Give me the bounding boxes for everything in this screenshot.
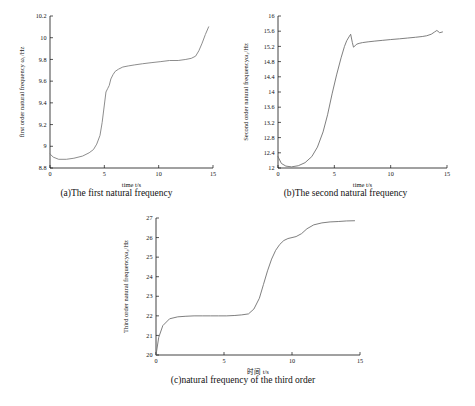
y-tick-label: 15.2 bbox=[264, 43, 275, 50]
x-tick-label: 5 bbox=[333, 170, 336, 177]
y-tick-label: 14.8 bbox=[264, 58, 275, 65]
y-tick-label: 27 bbox=[146, 214, 152, 221]
data-line bbox=[50, 27, 209, 159]
y-tick-label: 13.6 bbox=[264, 103, 275, 110]
y-tick-label: 12.8 bbox=[264, 134, 275, 141]
x-tick-label: 15 bbox=[444, 170, 450, 177]
panel-c: 2021222324252627051015时间 t/sThird order … bbox=[118, 210, 368, 385]
y-tick-label: 9.2 bbox=[39, 121, 47, 128]
y-tick-label: 15.6 bbox=[264, 27, 275, 34]
chart-b-svg: 1212.412.813.213.61414.414.815.215.61605… bbox=[238, 8, 453, 188]
data-line bbox=[156, 221, 355, 355]
y-axis-label: Second order natural frequencyω₂/Hz bbox=[242, 43, 249, 141]
x-tick-label: 0 bbox=[276, 170, 279, 177]
y-tick-label: 9 bbox=[43, 142, 46, 149]
y-tick-label: 10.2 bbox=[36, 12, 47, 19]
panel-c-plot: 2021222324252627051015时间 t/sThird order … bbox=[118, 210, 368, 375]
x-tick-label: 10 bbox=[156, 170, 162, 177]
x-axis-label: time t/s bbox=[353, 181, 373, 188]
chart-c-svg: 2021222324252627051015时间 t/sThird order … bbox=[118, 210, 368, 375]
y-tick-label: 22 bbox=[146, 312, 152, 319]
x-axis-label: time t/s bbox=[122, 181, 142, 188]
y-tick-label: 9.8 bbox=[39, 56, 47, 63]
y-axis-label: Third order natural frequencyω₃/Hz bbox=[122, 240, 129, 333]
y-tick-label: 16 bbox=[268, 12, 274, 19]
y-tick-label: 26 bbox=[146, 234, 152, 241]
y-tick-label: 20 bbox=[146, 351, 152, 358]
panel-b: 1212.412.813.213.61414.414.815.215.61605… bbox=[238, 8, 453, 198]
x-tick-label: 15 bbox=[357, 357, 363, 364]
y-tick-label: 25 bbox=[146, 253, 152, 260]
data-line bbox=[278, 30, 442, 166]
y-tick-label: 9.6 bbox=[39, 77, 47, 84]
y-tick-label: 24 bbox=[146, 273, 152, 280]
y-tick-label: 12 bbox=[268, 164, 274, 171]
y-tick-label: 13.2 bbox=[264, 119, 275, 126]
y-tick-label: 21 bbox=[146, 332, 152, 339]
panel-c-caption: (c)natural frequency of the third order bbox=[118, 375, 368, 385]
figure-container: 8.899.29.49.69.81010.2051015time t/sfirs… bbox=[0, 0, 475, 406]
y-tick-label: 9.4 bbox=[39, 99, 47, 106]
y-tick-label: 14 bbox=[268, 88, 274, 95]
x-tick-label: 10 bbox=[388, 170, 394, 177]
y-tick-label: 14.4 bbox=[264, 73, 275, 80]
y-axis-label: first order natural frequency ω₁/Hz bbox=[18, 47, 25, 138]
panel-a-caption: (a)The first natural frequency bbox=[14, 188, 219, 198]
panel-a: 8.899.29.49.69.81010.2051015time t/sfirs… bbox=[14, 8, 219, 198]
x-tick-label: 10 bbox=[289, 357, 295, 364]
x-axis-label: 时间 t/s bbox=[247, 367, 269, 376]
panel-a-plot: 8.899.29.49.69.81010.2051015time t/sfirs… bbox=[14, 8, 219, 188]
x-tick-label: 0 bbox=[154, 357, 157, 364]
y-tick-label: 8.8 bbox=[39, 164, 47, 171]
y-tick-label: 23 bbox=[146, 292, 152, 299]
chart-a-svg: 8.899.29.49.69.81010.2051015time t/sfirs… bbox=[14, 8, 219, 188]
x-tick-label: 5 bbox=[222, 357, 225, 364]
panel-b-plot: 1212.412.813.213.61414.414.815.215.61605… bbox=[238, 8, 453, 188]
y-tick-label: 10 bbox=[40, 34, 46, 41]
x-tick-label: 0 bbox=[48, 170, 51, 177]
panel-b-caption: (b)The second natural frequency bbox=[238, 188, 453, 198]
x-tick-label: 15 bbox=[210, 170, 216, 177]
y-tick-label: 12.4 bbox=[264, 149, 275, 156]
x-tick-label: 5 bbox=[103, 170, 106, 177]
